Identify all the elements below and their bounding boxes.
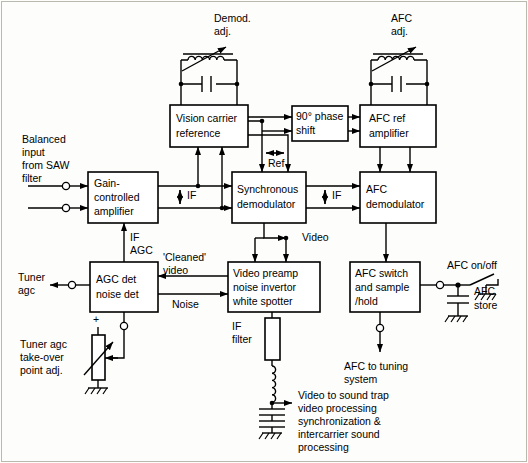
svg-text:adj.: adj. bbox=[391, 25, 408, 37]
wire-phase-shift-to-afc-ref bbox=[348, 117, 360, 131]
wire-vision-ref-to-phase-shift bbox=[248, 117, 292, 131]
svg-text:/hold: /hold bbox=[355, 295, 378, 307]
svg-text:Tuner agc: Tuner agc bbox=[20, 338, 67, 350]
svg-text:Tuner: Tuner bbox=[18, 271, 46, 283]
svg-text:Gain-: Gain- bbox=[94, 177, 120, 189]
svg-text:Synchronous: Synchronous bbox=[237, 183, 298, 195]
svg-text:'Cleaned': 'Cleaned' bbox=[163, 251, 206, 263]
wire-if-to-vision-ref bbox=[196, 147, 225, 210]
svg-text:AFC: AFC bbox=[474, 285, 495, 297]
afc-adj-label: AFC adj. bbox=[391, 12, 412, 37]
svg-text:AFC switch: AFC switch bbox=[355, 267, 408, 279]
cleaned-video-label: 'Cleaned' video bbox=[163, 251, 206, 276]
svg-text:AGC det: AGC det bbox=[96, 273, 136, 285]
svg-text:controlled: controlled bbox=[94, 191, 140, 203]
block-diagram-canvas: Demod. adj. AFC adj. Vision carrier refe… bbox=[0, 0, 528, 463]
svg-text:AFC ref: AFC ref bbox=[369, 112, 405, 124]
svg-text:and sample: and sample bbox=[355, 281, 409, 293]
block-phase-shift[interactable]: 90° phase shift bbox=[292, 106, 348, 141]
diagram-svg: Demod. adj. AFC adj. Vision carrier refe… bbox=[0, 0, 528, 463]
svg-text:IF: IF bbox=[130, 231, 139, 243]
tuner-agc-takeover-potentiometer[interactable] bbox=[84, 312, 128, 394]
svg-text:demodulator: demodulator bbox=[366, 198, 425, 210]
block-afc-demodulator[interactable]: AFC demodulator bbox=[360, 172, 436, 223]
block-video-preamp[interactable]: Video preamp noise invertor white spotte… bbox=[228, 262, 320, 312]
if-filter-label: IF filter bbox=[232, 320, 252, 345]
ref-label: Ref bbox=[268, 157, 284, 169]
if-label-right: IF bbox=[332, 189, 341, 201]
block-afc-ref-amplifier[interactable]: AFC ref amplifier bbox=[360, 105, 436, 147]
block-synchronous-demodulator[interactable]: Synchronous demodulator bbox=[232, 172, 306, 223]
demod-adj-label: Demod. adj. bbox=[214, 12, 251, 37]
svg-text:AFC: AFC bbox=[366, 183, 387, 195]
afc-onoff-label: AFC on/off bbox=[447, 259, 497, 271]
afc-to-tuning-label: AFC to tuning system bbox=[344, 360, 408, 385]
if-label-left: IF bbox=[187, 189, 196, 201]
afc-adj-tuned-circuit bbox=[369, 47, 430, 105]
svg-text:AFC to tuning: AFC to tuning bbox=[344, 360, 408, 372]
svg-text:amplifier: amplifier bbox=[369, 127, 409, 139]
wire-afc-ref-to-afc-demod bbox=[380, 147, 410, 172]
svg-text:noise invertor: noise invertor bbox=[233, 281, 297, 293]
svg-text:90° phase: 90° phase bbox=[296, 110, 344, 122]
svg-text:input: input bbox=[22, 146, 45, 158]
svg-text:synchronization &: synchronization & bbox=[298, 415, 381, 427]
svg-text:reference: reference bbox=[176, 127, 221, 139]
wire-afc-to-tuning bbox=[376, 312, 383, 352]
tuner-agc-takeover-label: Tuner agc take-over point adj. bbox=[20, 338, 67, 376]
block-agc-det[interactable]: AGC det noise det bbox=[90, 262, 158, 312]
block-gain-controlled-amplifier[interactable]: Gain- controlled amplifier bbox=[88, 172, 158, 223]
svg-text:demodulator: demodulator bbox=[237, 198, 296, 210]
svg-text:adj.: adj. bbox=[214, 25, 231, 37]
svg-text:point adj.: point adj. bbox=[20, 364, 63, 376]
demod-adj-tuned-circuit bbox=[179, 47, 240, 105]
svg-text:take-over: take-over bbox=[20, 351, 64, 363]
balanced-input-label: Balanced input from SAW filter bbox=[22, 133, 70, 184]
if-filter-network bbox=[259, 312, 292, 439]
svg-text:Demod.: Demod. bbox=[214, 12, 251, 24]
svg-text:video: video bbox=[163, 264, 188, 276]
svg-text:Video preamp: Video preamp bbox=[233, 267, 298, 279]
svg-text:Video to sound trap: Video to sound trap bbox=[298, 389, 389, 401]
svg-text:AFC: AFC bbox=[391, 12, 412, 24]
plus-sign-label: + bbox=[93, 313, 99, 325]
video-label: Video bbox=[302, 231, 329, 243]
block-afc-switch-sample-hold[interactable]: AFC switch and sample /hold bbox=[350, 262, 420, 312]
svg-text:from SAW: from SAW bbox=[22, 159, 70, 171]
svg-text:AGC: AGC bbox=[130, 244, 153, 256]
wire-sync-demod-video-out bbox=[255, 223, 288, 262]
svg-text:system: system bbox=[344, 373, 378, 385]
if-agc-label: IF AGC bbox=[130, 231, 153, 256]
balanced-input-lines bbox=[28, 182, 88, 211]
svg-text:noise det: noise det bbox=[96, 288, 139, 300]
svg-text:processing: processing bbox=[298, 441, 349, 453]
svg-text:amplifier: amplifier bbox=[94, 205, 134, 217]
svg-text:shift: shift bbox=[296, 124, 315, 136]
video-out-label: Video to sound trap video processing syn… bbox=[298, 389, 389, 453]
svg-text:intercarrier sound: intercarrier sound bbox=[298, 428, 380, 440]
wire-tuner-agc-out bbox=[50, 281, 90, 288]
svg-text:filter: filter bbox=[22, 172, 42, 184]
svg-text:video processing: video processing bbox=[298, 402, 377, 414]
svg-text:filter: filter bbox=[232, 333, 252, 345]
svg-text:white spotter: white spotter bbox=[232, 295, 293, 307]
tuner-agc-label: Tuner agc bbox=[18, 271, 46, 296]
block-vision-carrier-reference[interactable]: Vision carrier reference bbox=[170, 105, 248, 147]
svg-text:store: store bbox=[474, 299, 498, 311]
noise-label: Noise bbox=[172, 298, 199, 310]
svg-text:IF: IF bbox=[232, 320, 241, 332]
svg-text:Vision carrier: Vision carrier bbox=[176, 112, 238, 124]
svg-text:Balanced: Balanced bbox=[22, 133, 66, 145]
svg-text:agc: agc bbox=[18, 284, 35, 296]
